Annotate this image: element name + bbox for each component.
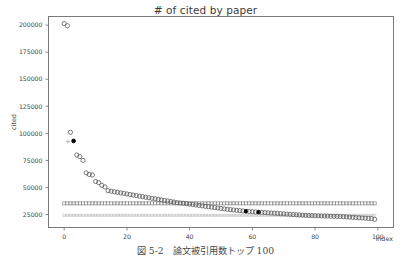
y-tick-label: 200000 [19,21,43,28]
series-reference-band [63,202,377,205]
data-point-highlighted [72,139,76,143]
y-tick-label: 175000 [19,48,43,55]
x-axis-ticks: 020406080100 [62,228,384,240]
plot-frame [49,17,394,228]
data-point [65,24,69,28]
y-tick-label: 75000 [23,157,43,164]
chart-annotations [66,140,70,144]
x-tick-label: 0 [62,233,66,240]
series-cited-count [62,21,377,221]
y-tick-label: 100000 [19,130,43,137]
y-tick-label: 25000 [23,211,43,218]
data-point [81,158,85,162]
x-axis-label: index [376,235,394,243]
y-axis-ticks: 2500050000750001000001250001500001750002… [19,21,49,217]
y-tick-label: 150000 [19,75,43,82]
x-tick-label: 20 [123,233,131,240]
y-tick-label: 125000 [19,103,43,110]
x-tick-label: 60 [248,233,256,240]
data-point [68,130,72,134]
x-tick-label: 40 [186,233,194,240]
figure-caption: 図 5-2 論文被引用数トップ 100 [0,243,411,257]
x-tick-label: 80 [311,233,319,240]
y-tick-label: 50000 [23,184,43,191]
figure-container: # of cited by paper 25000500007500010000… [0,0,411,261]
y-axis-label: cited [10,114,18,130]
chart-plot-area: 2500050000750001000001250001500001750002… [0,0,411,243]
